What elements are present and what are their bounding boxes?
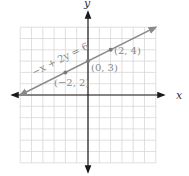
point-neg2-2 [63,70,67,74]
point-label-2-4: (2, 4) [114,45,141,56]
x-axis-label: x [176,89,183,102]
point-label-neg2-2: (−2, 2) [54,77,89,88]
coordinate-plane: x y −x + 2y = 6 (−2, 2) (0, 3) (2, 4) [0,0,189,176]
point-label-0-3: (0, 3) [91,62,118,73]
point-2-4 [109,48,113,52]
y-axis-label: y [83,0,91,10]
point-0-3 [86,59,90,63]
